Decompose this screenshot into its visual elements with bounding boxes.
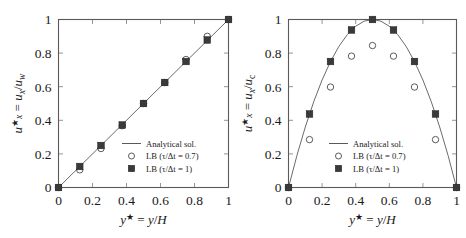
right-x-tick-labels: 00.20.40.60.81 [285, 193, 460, 208]
left-plot-svg: 00.20.40.60.81 00.20.40.60.81 Analytical… [0, 0, 233, 238]
left-y-axis-label: u★x = ux/uw [10, 73, 27, 133]
y-tick-label: 0.8 [265, 46, 282, 61]
data-point-square [411, 58, 418, 65]
legend-square-swatch [128, 165, 134, 171]
right-plot-svg: 00.20.40.60.81 00.20.40.60.81 Analytical… [233, 0, 466, 238]
y-tick-label: 0.4 [265, 113, 282, 128]
data-point-circle [369, 42, 375, 48]
x-tick-label: 0.6 [152, 193, 169, 208]
x-tick-label: 0.8 [186, 193, 203, 208]
figure-container: 00.20.40.60.81 00.20.40.60.81 Analytical… [0, 0, 466, 238]
right-x-axis-label: y★ = y/H [347, 212, 396, 227]
data-point-square [161, 79, 168, 86]
data-point-square [348, 27, 355, 34]
data-point-square [55, 184, 62, 191]
data-point-square [140, 100, 147, 107]
data-point-square [76, 163, 83, 170]
svg-text:u★x = ux/uc: u★x = ux/uc [240, 75, 257, 133]
data-point-circle [432, 136, 438, 142]
data-point-square [225, 16, 232, 23]
right-y-tick-labels: 00.20.40.60.81 [265, 12, 282, 195]
data-point-square [369, 16, 376, 23]
y-tick-label: 0 [275, 180, 282, 195]
left-y-tick-labels: 00.20.40.60.81 [35, 12, 52, 195]
data-point-square [306, 111, 313, 118]
legend-circle-swatch [129, 153, 135, 159]
x-tick-label: 0.2 [84, 193, 101, 208]
left-filled-square-markers [55, 16, 232, 191]
left-x-tick-labels: 00.20.40.60.81 [55, 193, 232, 208]
x-tick-label: 0.4 [347, 193, 364, 208]
legend-square-swatch [335, 165, 341, 171]
legend-label-lb07: LB (τ/Δt = 0.7) [353, 151, 406, 161]
right-y-axis-label: u★x = ux/uc [240, 75, 257, 133]
legend-label-lb1: LB (τ/Δt = 1) [146, 164, 192, 174]
y-tick-label: 0.8 [35, 46, 52, 61]
left-legend: Analytical sol. LB (τ/Δt = 0.7) LB (τ/Δt… [122, 139, 199, 174]
legend-label-lb07: LB (τ/Δt = 0.7) [146, 151, 199, 161]
y-tick-label: 0.2 [265, 147, 282, 162]
chart-panel-left: 00.20.40.60.81 00.20.40.60.81 Analytical… [0, 0, 233, 238]
data-point-circle [348, 53, 354, 59]
x-tick-label: 0.4 [118, 193, 135, 208]
data-point-square [390, 27, 397, 34]
x-tick-label: 0.2 [314, 193, 331, 208]
y-tick-label: 0.6 [265, 80, 282, 95]
data-point-circle [306, 136, 312, 142]
data-point-square [183, 58, 190, 65]
left-x-axis-label: y★ = y/H [118, 212, 167, 227]
data-point-square [204, 37, 211, 44]
legend-label-analytical: Analytical sol. [146, 139, 196, 149]
y-tick-label: 1 [275, 12, 282, 27]
x-tick-label: 0 [55, 193, 62, 208]
data-point-square [285, 184, 292, 191]
right-legend: Analytical sol. LB (τ/Δt = 0.7) LB (τ/Δt… [329, 139, 406, 174]
x-tick-label: 1 [225, 193, 232, 208]
legend-label-lb1: LB (τ/Δt = 1) [353, 164, 399, 174]
chart-panel-right: 00.20.40.60.81 00.20.40.60.81 Analytical… [233, 0, 466, 238]
x-tick-label: 0 [285, 193, 292, 208]
data-point-circle [390, 53, 396, 59]
y-tick-label: 0 [45, 180, 52, 195]
data-point-square [98, 142, 105, 149]
y-tick-label: 0.2 [35, 147, 52, 162]
x-tick-label: 0.6 [381, 193, 398, 208]
x-tick-label: 0.8 [414, 193, 431, 208]
y-tick-label: 0.6 [35, 80, 52, 95]
data-point-circle [327, 84, 333, 90]
data-point-square [432, 111, 439, 118]
svg-text:u★x = ux/uw: u★x = ux/uw [10, 73, 27, 133]
data-point-square [327, 58, 334, 65]
legend-label-analytical: Analytical sol. [353, 139, 403, 149]
data-point-circle [411, 84, 417, 90]
y-tick-label: 0.4 [35, 113, 52, 128]
x-tick-label: 1 [453, 193, 460, 208]
data-point-square [453, 184, 460, 191]
y-tick-label: 1 [45, 12, 52, 27]
data-point-square [119, 122, 126, 129]
legend-circle-swatch [336, 153, 342, 159]
